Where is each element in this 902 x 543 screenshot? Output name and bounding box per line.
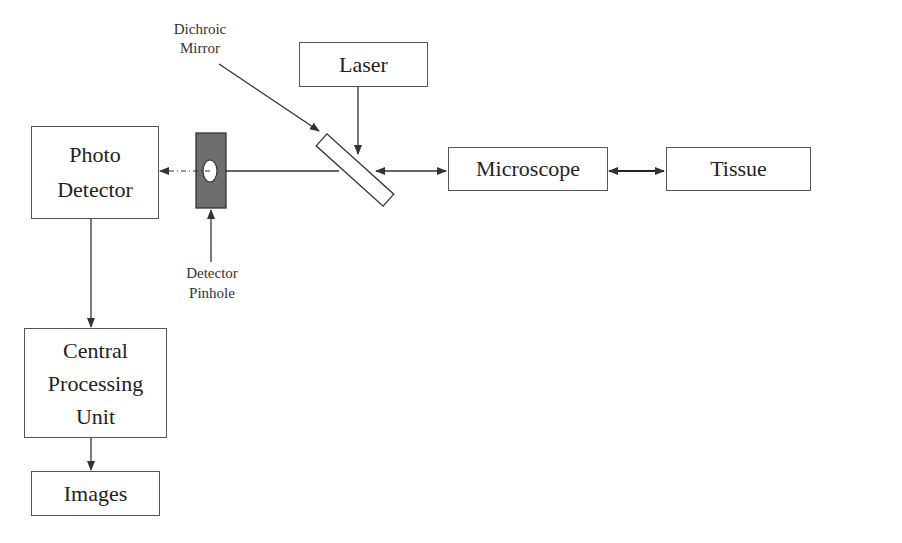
dichroic-mirror-label-2: Mirror — [160, 39, 240, 58]
cpu-label-2: Processing — [48, 367, 143, 400]
microscope-label: Microscope — [476, 155, 580, 183]
cpu-label-1: Central — [63, 334, 128, 367]
photo-detector-label-2: Detector — [57, 173, 133, 207]
cpu-label-3: Unit — [76, 400, 115, 433]
detector-pinhole-label: Detector Pinhole — [174, 263, 250, 304]
diagram-canvas: Laser Photo Detector Microscope Tissue C… — [0, 0, 902, 543]
detector-pinhole-icon — [196, 133, 226, 208]
cpu-box: Central Processing Unit — [24, 328, 167, 438]
images-box: Images — [31, 471, 160, 516]
dichroic-mirror-label: Dichroic Mirror — [160, 20, 240, 58]
tissue-box: Tissue — [666, 147, 811, 191]
detector-pinhole-label-1: Detector — [174, 263, 250, 283]
photo-detector-label-1: Photo — [69, 138, 120, 172]
tissue-label: Tissue — [710, 155, 767, 183]
detector-pinhole-label-2: Pinhole — [174, 283, 250, 303]
laser-label: Laser — [339, 51, 388, 79]
laser-box: Laser — [299, 42, 428, 87]
dichroic-mirror-label-1: Dichroic — [160, 20, 240, 39]
connector-layer — [0, 0, 902, 543]
microscope-box: Microscope — [448, 147, 608, 191]
images-label: Images — [64, 480, 128, 508]
photo-detector-box: Photo Detector — [31, 126, 159, 219]
dichroic-mirror-icon — [316, 134, 394, 206]
